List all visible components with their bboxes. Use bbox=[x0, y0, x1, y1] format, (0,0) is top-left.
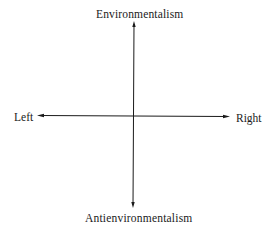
axes-diagram bbox=[0, 0, 274, 229]
arrow-down-icon bbox=[131, 202, 134, 208]
arrow-up-icon bbox=[132, 21, 135, 27]
arrow-left-icon bbox=[37, 114, 44, 117]
vertical-axis bbox=[131, 21, 135, 208]
arrow-right-icon bbox=[223, 115, 230, 118]
